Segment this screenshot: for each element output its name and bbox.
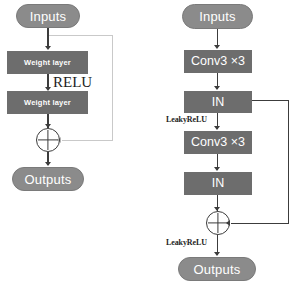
left-skip-horizontal-bottom	[62, 140, 113, 141]
right-diagram-in-residual-block: Inputs Conv3 ×3 IN LeakyReLU Conv3 ×3 IN	[145, 0, 291, 285]
left-relu-label: RELU	[53, 74, 92, 91]
right-leakyrelu-label-1: LeakyReLU	[166, 115, 207, 124]
right-in1-block: IN	[184, 91, 252, 113]
right-skip-horizontal-bottom	[231, 223, 288, 224]
right-arrowhead-to-conv1-icon	[214, 45, 220, 49]
right-skip-vertical-rail	[288, 100, 289, 224]
left-weight-layer-1: Weight layer	[7, 51, 88, 74]
right-outputs-pill: Outputs	[178, 257, 256, 281]
right-in2-block: IN	[184, 172, 252, 195]
right-inputs-pill: Inputs	[182, 4, 253, 29]
figure-canvas: Inputs Weight layer RELU Weight layer Ou…	[0, 0, 291, 285]
left-arrowhead-to-outputs-icon	[45, 162, 51, 166]
right-arrowhead-to-in1-icon	[214, 86, 220, 90]
left-outputs-pill: Outputs	[12, 167, 84, 191]
left-weight-layer-2: Weight layer	[7, 91, 88, 114]
right-arrowhead-to-outputs-icon	[214, 252, 220, 256]
right-conv1-block: Conv3 ×3	[184, 50, 252, 73]
right-skip-horizontal-top	[252, 100, 289, 101]
left-sum-node	[36, 128, 60, 152]
left-arrowhead-to-block2-icon	[45, 87, 51, 91]
left-arrowhead-to-block1-icon	[45, 46, 51, 50]
right-arrowhead-to-conv2-icon	[214, 126, 220, 130]
left-skip-vertical-rail	[112, 35, 113, 141]
right-sum-node	[206, 211, 230, 235]
right-conv2-block: Conv3 ×3	[184, 131, 252, 154]
left-diagram-classic-residual-block: Inputs Weight layer RELU Weight layer Ou…	[0, 0, 145, 285]
left-skip-horizontal-top	[47, 35, 113, 36]
right-leakyrelu-label-2: LeakyReLU	[166, 238, 207, 247]
left-inputs-pill: Inputs	[16, 4, 80, 28]
right-arrowhead-to-in2-icon	[214, 167, 220, 171]
